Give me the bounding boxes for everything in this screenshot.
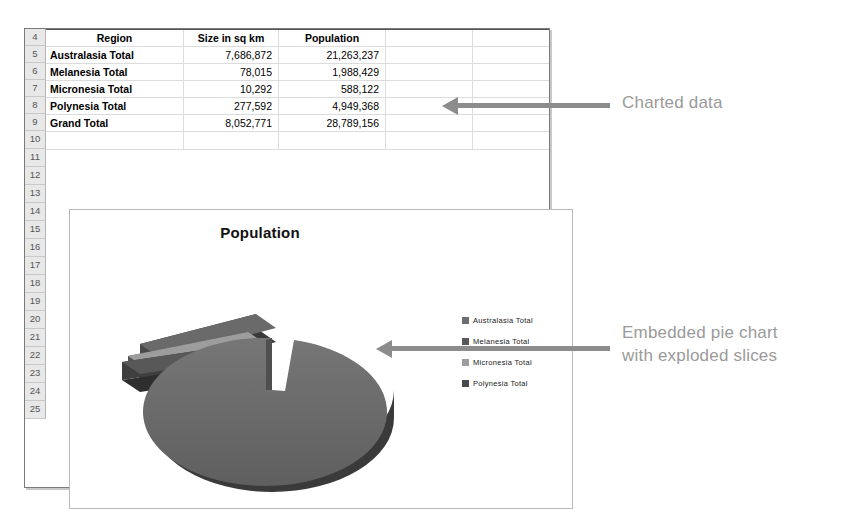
pie-chart-arrow-shaft (392, 346, 610, 351)
legend-item-micronesia[interactable]: Micronesia Total (462, 358, 574, 367)
row-header-21[interactable]: 21 (25, 329, 46, 347)
legend-swatch-icon (462, 380, 469, 387)
cell-size-0[interactable]: 7,686,872 (184, 47, 278, 63)
row-header-7[interactable]: 7 (25, 80, 46, 97)
grid-row-line-6 (46, 131, 549, 132)
row-header-11[interactable]: 11 (25, 149, 46, 167)
column-header-region[interactable]: Region (46, 30, 183, 46)
cell-population-1[interactable]: 1,988,429 (279, 64, 385, 80)
cell-region-3[interactable]: Polynesia Total (46, 98, 183, 114)
legend-swatch-icon (462, 317, 469, 324)
row-header-19[interactable]: 19 (25, 293, 46, 311)
legend-swatch-icon (462, 359, 469, 366)
row-header-4[interactable]: 4 (25, 29, 46, 46)
pie-slice-australasia (143, 338, 394, 492)
row-header-22[interactable]: 22 (25, 347, 46, 365)
row-header-10[interactable]: 10 (25, 131, 46, 149)
pie-svg (80, 250, 455, 500)
annotation-embedded-chart-line2: with exploded slices (622, 345, 777, 367)
row-header-24[interactable]: 24 (25, 383, 46, 401)
charted-data-arrow-head-icon (442, 97, 458, 115)
spreadsheet[interactable]: 4 5 6 7 8 9 10 11 12 13 14 15 16 17 18 1… (24, 28, 550, 488)
cell-region-1[interactable]: Melanesia Total (46, 64, 183, 80)
row-header-14[interactable]: 14 (25, 203, 46, 221)
legend-item-polynesia[interactable]: Polynesia Total (462, 379, 574, 388)
legend-item-australasia[interactable]: Australasia Total (462, 316, 574, 325)
legend-label: Polynesia Total (473, 379, 528, 388)
row-header-6[interactable]: 6 (25, 63, 46, 80)
chart-title: Population (70, 224, 450, 241)
cell-region-4[interactable]: Grand Total (46, 115, 183, 131)
row-header-13[interactable]: 13 (25, 185, 46, 203)
cell-population-3[interactable]: 4,949,368 (279, 98, 385, 114)
pie-chart-arrow-head-icon (376, 340, 392, 358)
cell-region-0[interactable]: Australasia Total (46, 47, 183, 63)
cell-population-4[interactable]: 28,789,156 (279, 115, 385, 131)
annotation-charted-data: Charted data (622, 92, 723, 114)
cell-population-0[interactable]: 21,263,237 (279, 47, 385, 63)
row-header-15[interactable]: 15 (25, 221, 46, 239)
row-header-18[interactable]: 18 (25, 275, 46, 293)
cell-size-2[interactable]: 10,292 (184, 81, 278, 97)
charted-data-arrow-shaft (458, 103, 610, 108)
embedded-pie-chart[interactable]: Population (69, 209, 573, 509)
column-header-size[interactable]: Size in sq km (184, 30, 278, 46)
pie-graphic[interactable] (80, 250, 455, 500)
row-header-23[interactable]: 23 (25, 365, 46, 383)
row-header-16[interactable]: 16 (25, 239, 46, 257)
chart-legend: Australasia Total Melanesia Total Micron… (462, 316, 574, 400)
row-header-17[interactable]: 17 (25, 257, 46, 275)
grid-row-line-7 (46, 149, 549, 150)
row-header-12[interactable]: 12 (25, 167, 46, 185)
annotation-embedded-chart-line1: Embedded pie chart (622, 322, 778, 344)
row-header-8[interactable]: 8 (25, 97, 46, 114)
cell-population-2[interactable]: 588,122 (279, 81, 385, 97)
row-header-25[interactable]: 25 (25, 401, 46, 419)
legend-swatch-icon (462, 338, 469, 345)
legend-label: Micronesia Total (473, 358, 532, 367)
row-header-20[interactable]: 20 (25, 311, 46, 329)
row-header-9[interactable]: 9 (25, 114, 46, 131)
row-header-5[interactable]: 5 (25, 46, 46, 63)
legend-label: Melanesia Total (473, 337, 529, 346)
cell-region-2[interactable]: Micronesia Total (46, 81, 183, 97)
cell-size-4[interactable]: 8,052,771 (184, 115, 278, 131)
cell-size-1[interactable]: 78,015 (184, 64, 278, 80)
column-header-population[interactable]: Population (279, 30, 385, 46)
legend-item-melanesia[interactable]: Melanesia Total (462, 337, 574, 346)
cell-size-3[interactable]: 277,592 (184, 98, 278, 114)
legend-label: Australasia Total (473, 316, 533, 325)
